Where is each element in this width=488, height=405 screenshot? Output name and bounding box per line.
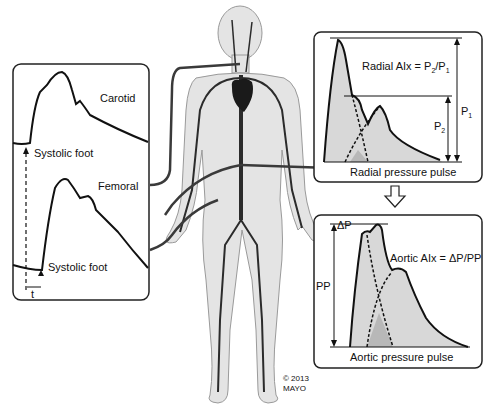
transit-time-label: t <box>31 288 34 300</box>
carotid-label: Carotid <box>100 92 135 104</box>
copyright-year: © 2013 <box>283 374 309 383</box>
femoral-label: Femoral <box>98 180 138 192</box>
systolic-foot-label-top: Systolic foot <box>34 147 93 159</box>
down-arrow-outline-icon <box>385 186 405 207</box>
systolic-foot-label-bottom: Systolic foot <box>48 261 107 273</box>
aortic-caption: Aortic pressure pulse <box>350 351 453 363</box>
radial-aix-formula: Radial AIx = P2/P1 <box>362 60 450 74</box>
radial-caption: Radial pressure pulse <box>350 166 456 178</box>
p1-label: P1 <box>461 105 472 119</box>
p2-label: P2 <box>434 120 445 134</box>
aortic-aix-formula: Aortic AIx = ΔP/PP <box>390 252 481 264</box>
copyright-owner: MAYO <box>283 384 306 393</box>
delta-p-label: ΔP <box>337 219 352 231</box>
arterial-tree <box>180 20 302 392</box>
pp-label: PP <box>316 280 331 292</box>
human-body-figure <box>166 6 321 403</box>
